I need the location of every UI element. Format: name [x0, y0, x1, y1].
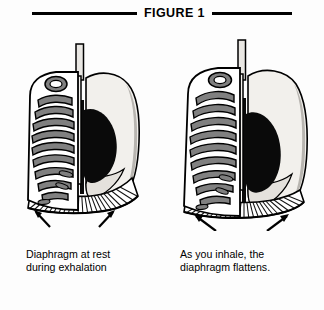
ribcage: [184, 68, 240, 216]
figure-header: FIGURE 1: [0, 0, 324, 26]
caption-line-1: As you inhale, the: [180, 248, 324, 261]
thorax-illustration-at-rest: [0, 26, 162, 231]
header-rule-right: [212, 12, 292, 15]
panel-diaphragm-inhaling: As you inhale, the diaphragm flattens.: [162, 26, 324, 310]
caption-at-rest: Diaphragm at rest during exhalation: [0, 248, 162, 275]
panel-diaphragm-at-rest: Diaphragm at rest during exhalation: [0, 26, 162, 310]
clavicle: [45, 77, 67, 92]
figure-root: FIGURE 1: [0, 0, 324, 310]
header-rule-left: [32, 12, 137, 15]
caption-line-2: diaphragm flattens.: [180, 261, 324, 274]
caption-line-2: during exhalation: [26, 261, 162, 274]
figure-panels: Diaphragm at rest during exhalation: [0, 26, 324, 310]
ribcage: [28, 72, 78, 210]
clavicle: [209, 73, 232, 88]
arrow-right: [99, 210, 115, 227]
caption-line-1: Diaphragm at rest: [26, 248, 162, 261]
arrow-right: [267, 214, 289, 231]
figure-title: FIGURE 1: [144, 6, 205, 20]
caption-inhaling: As you inhale, the diaphragm flattens.: [162, 248, 324, 275]
thorax-illustration-inhaling: [162, 26, 324, 231]
